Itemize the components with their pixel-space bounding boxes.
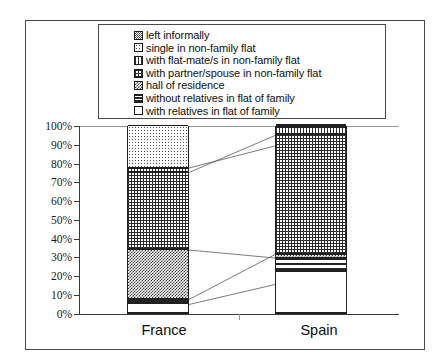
y-axis-tick	[74, 276, 79, 277]
bar-segment[interactable]	[128, 299, 188, 303]
y-axis-tick-label: 90%	[51, 139, 72, 151]
legend-item: left informally	[99, 29, 385, 42]
legend-item: with relatives in flat of family	[99, 105, 385, 118]
bar-segment[interactable]	[276, 271, 346, 312]
legend-swatch-left-informally	[134, 31, 143, 40]
chart-legend: left informally single in non-family fla…	[98, 24, 386, 119]
legend-label: with partner/spouse in non-family flat	[146, 67, 321, 80]
y-axis-tick	[74, 314, 79, 315]
legend-item: single in non-family flat	[99, 42, 385, 55]
y-axis-tick-label: 20%	[51, 270, 72, 282]
y-axis-tick-label: 70%	[51, 176, 72, 188]
legend-swatch-without-relatives	[134, 94, 143, 103]
bar-segment[interactable]	[128, 249, 188, 300]
y-axis-tick	[74, 145, 79, 146]
legend-item: without relatives in flat of family	[99, 92, 385, 105]
legend-item: hall of residence	[99, 79, 385, 92]
legend-label: with relatives in flat of family	[146, 105, 280, 118]
bar-segment[interactable]	[128, 172, 188, 249]
bar-segment[interactable]	[128, 168, 188, 172]
stacked-bar-spain[interactable]	[275, 126, 347, 314]
legend-label: single in non-family flat	[146, 42, 255, 55]
legend-swatch-hall-of-residence	[134, 81, 143, 90]
legend-swatch-single-non-family-flat	[134, 43, 143, 52]
legend-label: with flat-mate/s in non-family flat	[146, 54, 300, 67]
y-axis-tick	[74, 126, 79, 127]
y-axis-tick	[74, 239, 79, 240]
y-axis-tick-label: 50%	[51, 214, 72, 226]
y-axis-tick-label: 60%	[51, 195, 72, 207]
x-axis-minor-tick	[239, 314, 240, 320]
y-axis-tick	[74, 220, 79, 221]
legend-item: with flat-mate/s in non-family flat	[99, 54, 385, 67]
y-axis-tick-label: 30%	[51, 251, 72, 263]
y-axis-tick	[74, 164, 79, 165]
stacked-bar-france[interactable]	[127, 126, 189, 314]
bar-segment[interactable]	[276, 127, 346, 135]
bar-segment[interactable]	[276, 124, 346, 126]
bar-segment[interactable]	[276, 258, 346, 271]
bar-segment[interactable]	[128, 125, 188, 168]
legend-label: left informally	[146, 29, 209, 42]
legend-label: hall of residence	[146, 79, 224, 92]
plot-area: 0%10%20%30%40%50%60%70%80%90%100% France…	[79, 126, 399, 315]
bar-segment[interactable]	[128, 303, 188, 312]
y-axis-tick-label: 80%	[51, 158, 72, 170]
legend-swatch-with-relatives	[134, 106, 143, 115]
y-axis-tick	[74, 182, 79, 183]
y-axis-tick-label: 0%	[57, 308, 72, 320]
y-axis	[79, 126, 80, 315]
y-axis-tick	[74, 295, 79, 296]
y-axis-tick	[74, 201, 79, 202]
legend-item: with partner/spouse in non-family flat	[99, 67, 385, 80]
bar-segment[interactable]	[276, 254, 346, 258]
bar-segment[interactable]	[276, 134, 346, 254]
legend-swatch-flat-mates	[134, 56, 143, 65]
x-axis-label-spain: Spain	[300, 322, 337, 338]
y-axis-tick-label: 40%	[51, 233, 72, 245]
y-axis-tick	[74, 257, 79, 258]
legend-label: without relatives in flat of family	[146, 92, 295, 105]
y-axis-tick-label: 10%	[51, 289, 72, 301]
legend-swatch-partner-spouse	[134, 69, 143, 78]
chart-frame: left informally single in non-family fla…	[25, 20, 425, 350]
y-axis-tick-label: 100%	[45, 120, 72, 132]
x-axis-label-france: France	[141, 322, 186, 338]
